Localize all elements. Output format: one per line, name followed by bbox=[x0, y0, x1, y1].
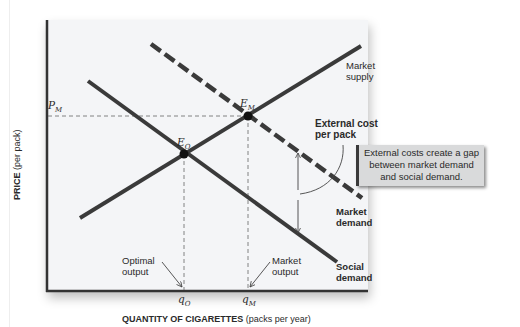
social-demand-label: Socialdemand bbox=[336, 261, 372, 283]
qm-label: qM bbox=[242, 293, 256, 310]
pm-label: PM bbox=[48, 99, 62, 116]
y-axis-label-bold: PRICE bbox=[12, 172, 22, 200]
y-axis-label-units: (per pack) bbox=[12, 129, 22, 172]
x-axis-label-units: (packs per year) bbox=[243, 314, 311, 324]
x-axis-label: QUANTITY OF CIGARETTES (packs per year) bbox=[122, 314, 311, 324]
market-output-arrow bbox=[250, 262, 270, 287]
y-axis-label: PRICE (per pack) bbox=[12, 80, 22, 200]
eo-label: EO bbox=[177, 136, 190, 153]
market-supply-label: Marketsupply bbox=[346, 60, 375, 82]
market-output-label: Marketoutput bbox=[272, 255, 301, 277]
social-demand-curve bbox=[88, 81, 337, 262]
market-demand-label: Marketdemand bbox=[336, 206, 372, 228]
callout-line-1: External costs create a gap bbox=[359, 147, 484, 159]
qo-label: qO bbox=[178, 293, 190, 310]
optimal-output-arrow bbox=[162, 262, 182, 287]
em-label: EM bbox=[240, 97, 255, 114]
callout-line-2: between market demand bbox=[359, 159, 484, 171]
optimal-output-label: Optimaloutput bbox=[122, 255, 155, 277]
external-cost-callout: External costs create a gap between mark… bbox=[356, 145, 484, 186]
callout-line-3: and social demand. bbox=[359, 171, 484, 183]
external-cost-label: External costper pack bbox=[315, 118, 378, 140]
x-axis-label-bold: QUANTITY OF CIGARETTES bbox=[122, 314, 243, 324]
